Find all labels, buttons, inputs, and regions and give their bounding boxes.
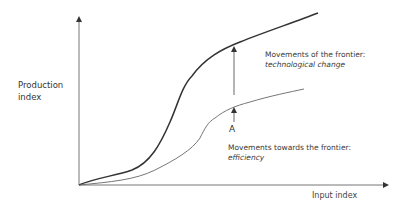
efficiency-title: Movements towards the frontier: — [228, 143, 351, 153]
efficiency-annotation: Movements towards the frontier: efficien… — [228, 143, 351, 163]
production-frontier-diagram: Production index Input index Movements o… — [0, 0, 403, 212]
tech-change-title: Movements of the frontier: — [265, 50, 365, 60]
y-axis-label-line1: Production — [18, 79, 63, 91]
diagram-canvas — [0, 0, 403, 212]
y-axis-label: Production index — [18, 79, 63, 103]
y-axis-label-line2: index — [18, 91, 63, 103]
lower-frontier-curve — [79, 89, 304, 185]
technological-change-annotation: Movements of the frontier: technological… — [265, 50, 365, 70]
point-a-label: A — [229, 124, 235, 134]
efficiency-subtitle: efficiency — [228, 153, 351, 163]
x-axis-label: Input index — [312, 191, 357, 201]
tech-change-subtitle: technological change — [265, 60, 365, 70]
